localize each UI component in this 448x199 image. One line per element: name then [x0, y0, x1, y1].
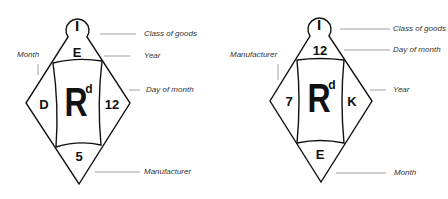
registered-mark-left: R — [65, 82, 86, 122]
label-month-left: Month — [17, 50, 39, 59]
registered-superscript-left: d — [84, 83, 94, 95]
label-class-of-goods-left: Class of goods — [144, 29, 197, 38]
label-day-of-month-right: Day of month — [393, 45, 441, 54]
registered-superscript-right: d — [327, 79, 337, 91]
year-glyph-left: E — [70, 46, 84, 59]
registered-mark-right: R — [308, 78, 329, 118]
year-glyph-right: K — [345, 95, 359, 108]
month-glyph-left: D — [37, 98, 51, 111]
label-class-of-goods-right: Class of goods — [393, 24, 446, 33]
day-glyph-left: 12 — [101, 98, 123, 111]
day-glyph-right: 12 — [309, 44, 331, 57]
class-of-goods-glyph-right: I — [312, 17, 326, 32]
label-year-left: Year — [144, 51, 160, 60]
leader-lines-left — [38, 34, 140, 172]
label-month-right: Month — [394, 168, 416, 177]
manufacturer-glyph-left: 5 — [72, 150, 86, 163]
label-manufacturer-right: Manufacturer — [230, 50, 277, 59]
month-glyph-right: E — [313, 148, 327, 161]
class-of-goods-glyph-left: I — [70, 18, 84, 33]
manufacturer-glyph-right: 7 — [282, 95, 296, 108]
label-day-of-month-left: Day of month — [146, 85, 194, 94]
label-year-right: Year — [393, 85, 409, 94]
label-manufacturer-left: Manufacturer — [144, 167, 191, 176]
